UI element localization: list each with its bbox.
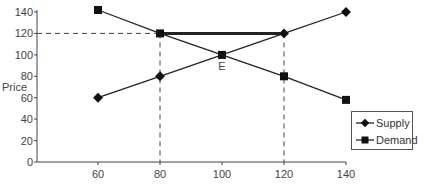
diamond-marker-icon — [356, 118, 374, 128]
svg-text:140: 140 — [15, 6, 33, 18]
svg-text:100: 100 — [213, 168, 231, 180]
svg-text:140: 140 — [337, 168, 355, 180]
legend-item-demand: Demand — [356, 133, 418, 147]
svg-text:120: 120 — [15, 27, 33, 39]
y-axis-title: Price — [2, 81, 27, 93]
svg-text:40: 40 — [21, 113, 33, 125]
svg-text:60: 60 — [21, 92, 33, 104]
svg-text:120: 120 — [275, 168, 293, 180]
svg-text:80: 80 — [154, 168, 166, 180]
equilibrium-label: E — [218, 60, 225, 72]
x-tick-labels: 60 80 100 120 140 — [92, 168, 355, 180]
svg-text:20: 20 — [21, 135, 33, 147]
legend: Supply Demand — [351, 111, 413, 150]
legend-label-demand: Demand — [376, 133, 418, 147]
legend-item-supply: Supply — [356, 116, 410, 130]
square-marker-icon — [356, 135, 374, 145]
supply-demand-chart: 0 20 40 60 80 100 120 140 Price 60 80 10… — [0, 0, 423, 196]
demand-markers — [94, 6, 350, 104]
svg-text:0: 0 — [27, 156, 33, 168]
svg-text:60: 60 — [92, 168, 104, 180]
svg-text:100: 100 — [15, 49, 33, 61]
legend-label-supply: Supply — [376, 116, 410, 130]
